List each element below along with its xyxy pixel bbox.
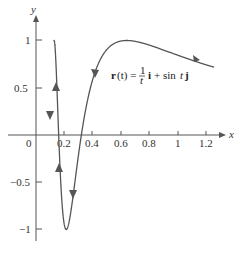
direction-arrow-icon [52, 82, 60, 91]
equation-annotation: r (t) = 1 t i + sin t j [111, 64, 189, 86]
direction-arrow-icon [46, 111, 54, 120]
svg-text:+ sin: + sin [154, 69, 176, 81]
y-axis-arrow-icon [33, 15, 39, 22]
y-tick-label: −0.5 [10, 176, 30, 188]
x-tick-label: 1 [175, 137, 181, 149]
svg-text:r: r [111, 69, 116, 81]
x-tick-label: 0.8 [142, 137, 156, 149]
direction-arrow-icon [193, 55, 200, 62]
svg-text:t: t [180, 69, 184, 81]
chart: x y 0 0.2 0.4 0.6 0.8 1 1.2 1 0.5 −0.5 −… [0, 0, 252, 256]
x-tick-label: 0.6 [114, 137, 128, 149]
y-tick-label: 0.5 [14, 82, 28, 94]
x-ticks [64, 131, 206, 135]
x-axis-arrow-icon [219, 132, 226, 138]
x-axis-label: x [228, 128, 234, 140]
svg-text:j: j [184, 69, 189, 81]
y-tick-label: 1 [25, 34, 31, 46]
x-tick-label: 0 [26, 137, 32, 149]
svg-text:(t) =: (t) = [117, 69, 136, 82]
y-tick-label: −1 [19, 223, 31, 235]
direction-arrow-icon [69, 190, 77, 199]
x-tick-label: 1.2 [199, 137, 213, 149]
svg-text:i: i [148, 69, 151, 81]
x-tick-label: 0.4 [85, 137, 99, 149]
direction-arrow-icon [55, 163, 63, 172]
direction-arrow-icon [91, 69, 99, 78]
y-axis-label: y [30, 3, 36, 15]
